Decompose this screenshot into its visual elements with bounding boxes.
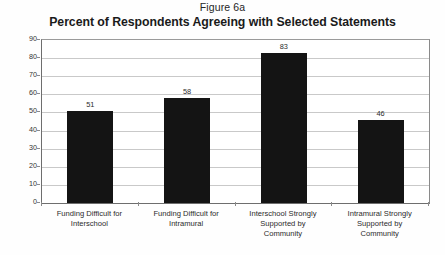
x-tick-mark xyxy=(331,202,332,206)
y-tick-mark xyxy=(37,75,40,76)
y-tick-label: 10 xyxy=(0,180,37,187)
bar xyxy=(358,120,404,203)
plot-area: 51588346 xyxy=(41,39,430,204)
y-axis: 9080706050403020100 xyxy=(0,39,37,202)
bar-value-label: 51 xyxy=(86,101,94,109)
y-tick-mark xyxy=(37,184,40,185)
y-tick-mark xyxy=(37,166,40,167)
bar-group: 51 xyxy=(42,40,139,203)
x-tick-mark xyxy=(235,202,236,206)
y-tick-label: 50 xyxy=(0,108,37,115)
bar-group: 58 xyxy=(139,40,236,203)
y-tick-label: 80 xyxy=(0,54,37,61)
y-tick-label: 40 xyxy=(0,126,37,133)
x-tick-label-line: Funding Difficult for xyxy=(41,209,138,219)
x-tick-label-line: Intramural Strongly xyxy=(331,209,428,219)
x-tick-label-line: Interschool Strongly xyxy=(235,209,332,219)
y-tick-mark xyxy=(37,111,40,112)
bar xyxy=(67,111,113,203)
x-tick-label-line: Interschool xyxy=(41,219,138,229)
bar-value-label: 46 xyxy=(377,110,385,118)
x-tick-label: Funding Difficult forInterschool xyxy=(41,209,138,229)
x-tick-label-line: Funding Difficult for xyxy=(138,209,235,219)
y-tick-label: 70 xyxy=(0,72,37,79)
x-tick-label-line: Supported by xyxy=(331,219,428,229)
y-tick-mark xyxy=(37,93,40,94)
y-tick-label: 30 xyxy=(0,144,37,151)
x-tick-label-line: Community xyxy=(331,229,428,239)
chart-figure: Figure 6a Percent of Respondents Agreein… xyxy=(0,0,445,255)
y-tick-mark xyxy=(37,130,40,131)
y-tick-mark xyxy=(37,57,40,58)
chart-title-block: Figure 6a Percent of Respondents Agreein… xyxy=(0,1,445,30)
y-tick-mark xyxy=(37,148,40,149)
x-tick-label-line: Community xyxy=(235,229,332,239)
x-axis-labels: Funding Difficult forInterschoolFunding … xyxy=(41,209,430,251)
bar xyxy=(164,98,210,203)
x-tick-label: Intramural StronglySupported byCommunity xyxy=(331,209,428,240)
bar-value-label: 83 xyxy=(280,43,288,51)
x-tick-label-line: Intramural xyxy=(138,219,235,229)
bar-value-label: 58 xyxy=(183,88,191,96)
y-tick-mark xyxy=(37,39,40,40)
y-tick-label: 0 xyxy=(0,198,37,205)
chart-title: Percent of Respondents Agreeing with Sel… xyxy=(0,15,445,30)
x-tick-label: Interschool StronglySupported byCommunit… xyxy=(235,209,332,240)
y-tick-label: 60 xyxy=(0,90,37,97)
x-tick-mark xyxy=(41,202,42,206)
y-tick-label: 20 xyxy=(0,162,37,169)
x-tick-label: Funding Difficult forIntramural xyxy=(138,209,235,229)
bar-group: 46 xyxy=(332,40,429,203)
x-tick-label-line: Supported by xyxy=(235,219,332,229)
figure-number-label: Figure 6a xyxy=(0,1,445,14)
bar xyxy=(261,53,307,203)
x-tick-mark xyxy=(428,202,429,206)
bar-series: 51588346 xyxy=(42,40,429,203)
bar-group: 83 xyxy=(236,40,333,203)
x-tick-mark xyxy=(138,202,139,206)
y-tick-label: 90 xyxy=(0,35,37,42)
y-tick-mark xyxy=(37,202,40,203)
x-axis-ticks xyxy=(41,202,430,206)
